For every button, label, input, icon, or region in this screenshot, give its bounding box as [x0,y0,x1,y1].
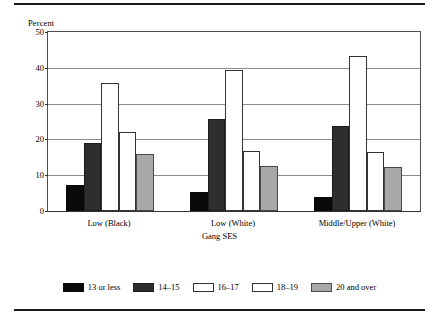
legend-label: 14–15 [158,282,179,292]
y-axis-tick-label: 50 [36,27,45,37]
x-axis-tick-label: Middle/Upper (White) [319,218,396,228]
legend-label: 18–19 [277,282,298,292]
bar [208,119,226,211]
legend-item: 20 and over [311,282,376,292]
x-axis-tick-label: Low (White) [211,218,255,228]
bar [66,185,84,211]
legend-swatch [252,283,273,292]
bar-group [66,32,154,211]
bar-group [314,32,402,211]
bar [260,166,278,211]
y-axis-tick-mark [45,104,48,105]
y-axis-tick-mark [45,68,48,69]
x-axis-tick-label: Low (Black) [87,218,130,228]
chart-figure: Percent 01020304050 Low (Black)Low (Whit… [0,0,439,321]
y-axis-tick-label: 20 [36,134,45,144]
y-axis-tick-label: 30 [36,99,45,109]
legend-swatch [133,283,154,292]
x-axis-title: Gang SES [0,231,439,241]
bar [384,167,402,211]
chart-legend: 13 or less14–1516–1718–1920 and over [0,282,439,292]
y-axis-tick-mark [45,32,48,33]
y-axis-tick-mark [45,139,48,140]
bar [84,143,102,211]
bar [243,151,261,211]
bar [190,192,208,211]
legend-item: 14–15 [133,282,179,292]
bar [332,126,350,211]
bar [367,152,385,211]
legend-label: 13 or less [88,282,121,292]
y-axis-tick-label: 10 [36,170,45,180]
legend-label: 16–17 [218,282,239,292]
bar [314,197,332,211]
bar [101,83,119,211]
legend-swatch [311,283,332,292]
y-axis-tick-mark [45,211,48,212]
bottom-rule [14,309,425,311]
bar [119,132,137,211]
legend-label: 20 and over [336,282,376,292]
bar [225,70,243,211]
y-axis-tick-label: 0 [40,206,44,216]
legend-item: 13 or less [63,282,121,292]
legend-item: 16–17 [193,282,239,292]
bar [136,154,154,211]
legend-item: 18–19 [252,282,298,292]
bar-group [190,32,278,211]
legend-swatch [63,283,84,292]
y-axis-tick-label: 40 [36,63,45,73]
bar [349,56,367,211]
top-rule [14,3,425,5]
y-axis-tick-mark [45,175,48,176]
legend-swatch [193,283,214,292]
plot-area: 01020304050 [47,31,421,212]
